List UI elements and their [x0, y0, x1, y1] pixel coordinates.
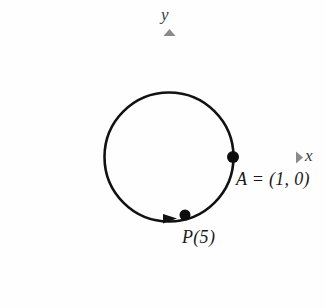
y-axis-label: y: [161, 6, 169, 23]
x-axis-label: x: [305, 147, 313, 164]
x-axis-arrow-icon: [296, 152, 303, 164]
y-axis-arrow-icon: [164, 29, 176, 36]
point-p-label: P(5): [182, 228, 215, 246]
figure-canvas: [0, 0, 325, 308]
point-a-marker: [227, 151, 239, 163]
unit-circle-figure: y x A = (1, 0) P(5): [0, 0, 325, 308]
point-a-label: A = (1, 0): [236, 170, 310, 188]
point-p-marker: [180, 210, 191, 221]
